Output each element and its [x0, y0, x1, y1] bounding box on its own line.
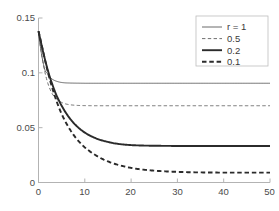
legend-label-0: r = 1 [227, 21, 246, 32]
x-tick-label-2: 20 [120, 186, 141, 197]
y-tick-label-3: 0.15 [2, 12, 35, 23]
chart-figure: r = 10.50.20.1 0.15 0.1 0.05 0 0 10 20 3… [0, 0, 279, 211]
chart-legend: r = 10.50.20.1 [196, 16, 268, 67]
y-tick-label-1: 0.05 [2, 122, 35, 133]
x-tick-label-5: 50 [259, 186, 279, 197]
x-tick-label-0: 0 [28, 186, 49, 197]
legend-label-2: 0.2 [227, 45, 240, 56]
y-tick-label-2: 0.1 [2, 67, 35, 78]
legend-label-1: 0.5 [227, 33, 240, 44]
x-tick-label-4: 40 [213, 186, 234, 197]
x-tick-label-1: 10 [74, 186, 95, 197]
line-chart-plot: r = 10.50.20.1 [0, 0, 279, 211]
legend-label-3: 0.1 [227, 56, 240, 67]
x-tick-label-3: 30 [167, 186, 188, 197]
